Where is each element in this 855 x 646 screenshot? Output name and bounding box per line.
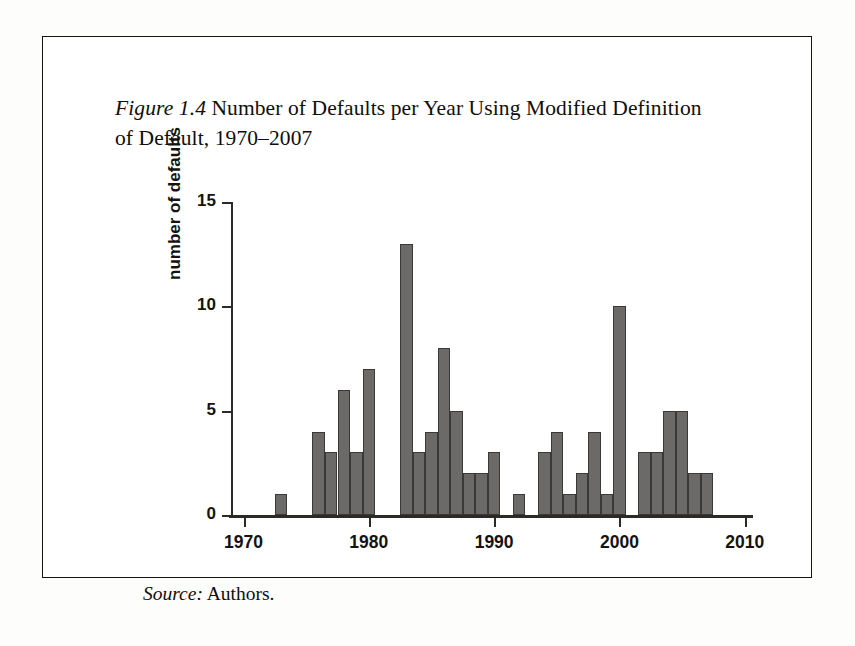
bar	[513, 494, 526, 515]
x-axis-tick	[745, 517, 747, 527]
y-axis-tick: 0	[222, 515, 231, 517]
x-axis-tick-label: 2000	[600, 532, 639, 553]
bar	[350, 452, 363, 515]
bar	[688, 473, 701, 515]
bar	[651, 452, 664, 515]
bar	[538, 452, 551, 515]
bar	[701, 473, 714, 515]
bar	[413, 452, 426, 515]
figure-label: Figure	[115, 96, 173, 120]
source-note: Source: Authors.	[143, 583, 274, 605]
source-text: Authors.	[203, 583, 275, 604]
x-axis-tick	[369, 517, 371, 527]
bar	[450, 411, 463, 515]
figure-frame: Figure 1.4 Number of Defaults per Year U…	[42, 36, 812, 578]
x-axis-tick-label: 1970	[224, 532, 263, 553]
x-axis-tick	[494, 517, 496, 527]
y-axis-tick: 10	[222, 306, 231, 308]
bar	[588, 432, 601, 515]
bar	[400, 244, 413, 515]
x-axis-tick	[244, 517, 246, 527]
x-axis-tick-label: 2010	[725, 532, 764, 553]
bar	[576, 473, 589, 515]
bar	[363, 369, 376, 515]
bar	[463, 473, 476, 515]
bar	[312, 432, 325, 515]
y-axis-tick: 15	[222, 202, 231, 204]
bar	[425, 432, 438, 515]
bar	[325, 452, 338, 515]
y-axis-title: number of defaults	[165, 127, 185, 280]
bar	[663, 411, 676, 515]
x-axis-line	[229, 515, 753, 518]
x-axis-tick-label: 1990	[475, 532, 514, 553]
y-axis-tick: 5	[222, 411, 231, 413]
figure-page: Figure 1.4 Number of Defaults per Year U…	[0, 0, 855, 646]
y-axis-tick-label: 5	[207, 400, 216, 420]
y-axis-tick-label: 15	[197, 191, 216, 211]
bar	[601, 494, 614, 515]
y-axis-tick-label: 10	[197, 295, 216, 315]
bar	[275, 494, 288, 515]
bar	[563, 494, 576, 515]
figure-caption: Figure 1.4 Number of Defaults per Year U…	[115, 93, 725, 153]
bar	[475, 473, 488, 515]
figure-number-value: 1.4	[179, 96, 206, 120]
x-axis-tick-label: 1980	[349, 532, 388, 553]
bar	[488, 452, 501, 515]
bar	[338, 390, 351, 515]
bar	[551, 432, 564, 515]
source-label: Source:	[143, 583, 203, 604]
chart-plot-area: number of defaults 051015 19701980199020…	[231, 202, 751, 515]
bar	[438, 348, 451, 515]
bar	[638, 452, 651, 515]
bar	[613, 306, 626, 515]
bar	[676, 411, 689, 515]
y-axis-tick-label: 0	[207, 504, 216, 524]
x-axis-tick	[619, 517, 621, 527]
y-axis-line	[231, 202, 233, 516]
